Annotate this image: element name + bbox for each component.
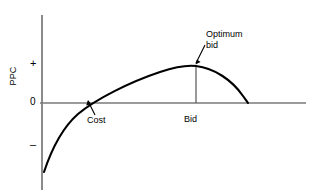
ppc-bid-chart: PPC + 0 – Cost Bid Optimumbid — [0, 0, 314, 196]
optimum-bid-label-line2: bid — [206, 40, 218, 50]
chart-canvas — [0, 0, 314, 196]
cost-label: Cost — [87, 115, 106, 126]
optimum-bid-label-line1: Optimum — [206, 29, 243, 39]
ppc-curve — [44, 66, 248, 172]
optimum-arrow-icon — [195, 45, 205, 65]
y-tick-plus: + — [30, 58, 36, 69]
bid-label: Bid — [184, 114, 197, 125]
y-tick-minus: – — [30, 139, 36, 150]
y-tick-zero: 0 — [30, 96, 36, 107]
y-axis-title: PPC — [8, 56, 18, 96]
optimum-bid-label: Optimumbid — [206, 29, 243, 51]
